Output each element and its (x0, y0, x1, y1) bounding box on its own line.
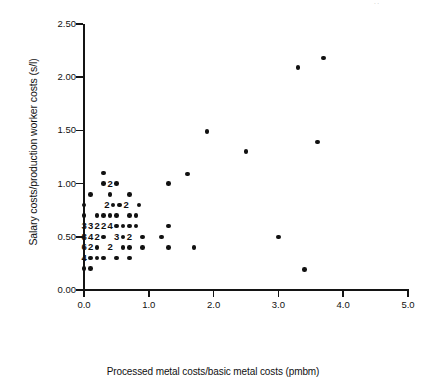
data-point-marker (95, 213, 100, 218)
data-point-count-label: 2 (94, 232, 99, 242)
data-point-marker (117, 203, 122, 208)
data-point-marker (134, 213, 139, 218)
data-point-marker (276, 235, 281, 240)
data-point-count-label: 3 (82, 221, 87, 231)
data-point-marker (114, 256, 119, 261)
data-point-count-label: 4 (107, 221, 112, 231)
y-tick-label-wrap: 1.50 (0, 124, 76, 136)
data-point-marker (127, 224, 132, 229)
y-tick-mark (76, 289, 83, 291)
x-tick-mark (83, 291, 85, 297)
data-point-marker (127, 256, 132, 261)
y-tick-mark (76, 183, 83, 185)
data-point-marker (95, 245, 100, 250)
x-tick-label: 0.0 (64, 299, 104, 310)
data-point-marker (296, 65, 301, 70)
data-point-marker (127, 213, 132, 218)
y-tick-mark (76, 76, 83, 78)
data-point-count-label: 2 (101, 221, 106, 231)
data-point-marker (134, 224, 139, 229)
data-point-marker (166, 224, 171, 229)
data-point-marker (140, 245, 145, 250)
y-tick-label: 1.50 (42, 124, 76, 135)
y-tick-label: 0.50 (42, 231, 76, 242)
data-point-marker (114, 213, 119, 218)
data-point-count-label: 2 (107, 179, 112, 189)
data-point-count-label: 3 (88, 221, 93, 231)
data-point-marker (192, 245, 197, 250)
x-tick-label: 3.0 (258, 299, 298, 310)
y-tick-label-wrap: 2.50 (0, 18, 76, 30)
data-point-marker (121, 245, 126, 250)
x-tick-mark (213, 291, 215, 297)
y-tick-label: 2.00 (42, 71, 76, 82)
data-point-marker (88, 266, 93, 271)
data-point-count-label: 2 (127, 232, 132, 242)
y-axis-title: Salary costs/production worker costs (s/… (27, 7, 39, 297)
x-tick-mark (278, 291, 280, 297)
scatter-plot-figure: ·· Salary costs/production worker costs … (0, 0, 426, 383)
x-tick-label: 5.0 (388, 299, 426, 310)
x-axis-title: Processed metal costs/basic metal costs … (0, 366, 426, 377)
data-point-count-label: 8 (82, 232, 87, 242)
data-point-marker (101, 256, 106, 261)
y-tick-mark (76, 130, 83, 132)
data-point-marker (111, 203, 116, 208)
x-axis-line (83, 289, 409, 291)
x-tick-mark (148, 291, 150, 297)
data-point-marker (127, 192, 132, 197)
data-point-marker (166, 181, 171, 186)
x-tick-mark (407, 291, 409, 297)
data-point-marker (88, 256, 93, 261)
data-point-marker (114, 224, 119, 229)
data-point-marker (101, 171, 106, 176)
data-point-marker (140, 235, 145, 240)
data-point-marker (101, 213, 106, 218)
data-point-marker (101, 235, 106, 240)
y-tick-label-wrap: 0.00 (0, 284, 76, 296)
data-point-count-label: 2 (124, 200, 129, 210)
data-point-marker (166, 245, 171, 250)
data-point-count-label: 2 (104, 200, 109, 210)
x-tick-label: 2.0 (194, 299, 234, 310)
x-tick-label: 1.0 (129, 299, 169, 310)
data-point-count-label: 6 (82, 243, 87, 253)
y-tick-label: 0.00 (42, 284, 76, 295)
data-point-marker (101, 181, 106, 186)
data-point-marker (159, 235, 164, 240)
x-tick-label: 4.0 (323, 299, 363, 310)
data-point-marker (302, 267, 307, 272)
data-point-marker (95, 256, 100, 261)
data-point-count-label: 2 (107, 243, 112, 253)
data-point-marker (315, 140, 320, 145)
data-point-marker (82, 203, 87, 208)
data-point-marker (121, 224, 126, 229)
x-tick-mark (342, 291, 344, 297)
y-tick-mark (76, 23, 83, 25)
y-tick-label-wrap: 1.00 (0, 178, 76, 190)
data-point-marker (137, 203, 142, 208)
y-tick-label-wrap: 0.50 (0, 231, 76, 243)
data-point-marker (108, 213, 113, 218)
data-point-count-label: 4 (88, 232, 93, 242)
data-point-marker (82, 266, 87, 271)
data-point-count-label: 3 (114, 232, 119, 242)
data-point-marker (205, 129, 210, 134)
data-point-marker (127, 245, 132, 250)
data-point-marker (108, 192, 113, 197)
data-point-marker (244, 149, 249, 154)
scan-artifact: ·· (362, 1, 392, 7)
y-tick-label: 1.00 (42, 178, 76, 189)
data-point-marker (88, 192, 93, 197)
data-point-marker (185, 172, 190, 177)
data-point-count-label: 2 (94, 221, 99, 231)
data-point-marker (114, 181, 119, 186)
data-point-marker (321, 56, 326, 61)
data-point-count-label: 4 (82, 253, 87, 263)
y-tick-label: 2.50 (42, 18, 76, 29)
y-tick-label-wrap: 2.00 (0, 71, 76, 83)
data-point-count-label: 2 (88, 243, 93, 253)
data-point-marker (121, 235, 126, 240)
data-point-marker (82, 213, 87, 218)
